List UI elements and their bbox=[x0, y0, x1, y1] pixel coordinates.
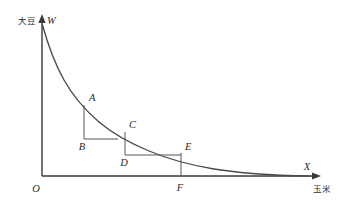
y-axis-arrow-icon bbox=[38, 14, 45, 23]
y-axis-name-label: 大豆 bbox=[18, 16, 36, 26]
point-label-b: B bbox=[79, 141, 86, 152]
point-label-a: A bbox=[88, 92, 96, 103]
point-label-c: C bbox=[129, 119, 137, 130]
point-label-d: D bbox=[119, 157, 128, 168]
indifference-curve-path bbox=[43, 25, 311, 176]
x-axis-name-label: 玉米 bbox=[313, 184, 331, 194]
x-axis-symbol-label: X bbox=[303, 161, 311, 172]
x-axis-arrow-icon bbox=[312, 172, 321, 179]
point-label-e: E bbox=[184, 141, 192, 152]
point-label-f: F bbox=[176, 182, 184, 193]
economics-indifference-curve-diagram: W X O 大豆 玉米 A B C D E F bbox=[0, 0, 341, 206]
step-group-ab bbox=[84, 105, 118, 139]
origin-label: O bbox=[32, 183, 40, 194]
figure-canvas: W X O 大豆 玉米 A B C D E F bbox=[0, 0, 341, 206]
y-axis-symbol-label: W bbox=[47, 15, 57, 26]
y-axis-group bbox=[38, 14, 45, 176]
curve-group bbox=[43, 25, 311, 176]
